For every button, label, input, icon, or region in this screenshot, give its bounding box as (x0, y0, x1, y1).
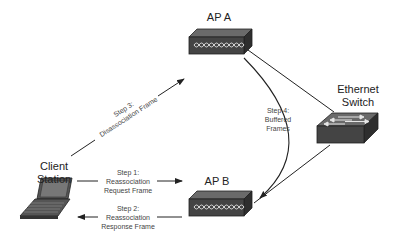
wireless-roaming-diagram (0, 0, 397, 241)
step1-line2: Reassociation (96, 177, 160, 186)
access-point-b-icon (189, 191, 252, 216)
step1-line1: Step 1: (96, 168, 160, 177)
step2-line2: Reassociation (94, 213, 162, 222)
step2-line3: Response Frame (94, 222, 162, 231)
step4-line1: Step 4: (258, 106, 298, 115)
ap-a-label: AP A (204, 11, 234, 24)
switch-label: Ethernet Switch (330, 83, 386, 109)
step4-label: Step 4: Buffered Frames (258, 106, 298, 133)
step4-line2: Buffered (258, 115, 298, 124)
link-switch-ap-b (254, 145, 330, 203)
step1-label: Step 1: Reassociation Request Frame (96, 168, 160, 195)
step2-label: Step 2: Reassociation Response Frame (94, 204, 162, 231)
client-station-label: Client Station (31, 160, 77, 186)
client-label-line2: Station (31, 173, 77, 186)
step1-line3: Request Frame (96, 186, 160, 195)
ap-b-label: AP B (202, 175, 232, 188)
client-label-line1: Client (31, 160, 77, 173)
switch-label-line1: Ethernet (330, 83, 386, 96)
step4-line3: Frames (258, 124, 298, 133)
access-point-a-icon (189, 29, 252, 54)
step2-line1: Step 2: (94, 204, 162, 213)
ethernet-switch-icon (317, 113, 378, 143)
switch-label-line2: Switch (330, 96, 386, 109)
link-ap-a-switch (248, 50, 334, 112)
